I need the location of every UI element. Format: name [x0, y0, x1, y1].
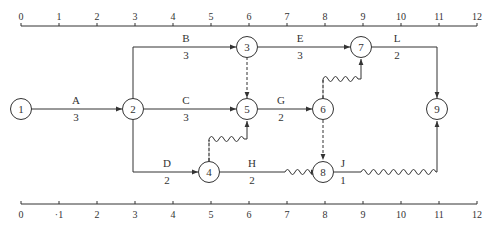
- axis-tick-label: 5: [209, 209, 214, 220]
- axis-tick-label: 8: [323, 11, 328, 22]
- svg-text:4: 4: [206, 166, 212, 178]
- activity-g-duration: 2: [278, 111, 284, 123]
- activity-b-duration: 3: [183, 49, 189, 61]
- axis-tick-label: 11: [434, 11, 444, 22]
- bottom-time-axis: 0·123456789101112: [19, 201, 483, 220]
- node-9: 9: [427, 99, 448, 120]
- activity-e-name: E: [297, 32, 304, 44]
- node-3: 3: [237, 37, 258, 58]
- activity-a-name: A: [72, 94, 80, 106]
- activity-h-name: H: [248, 157, 256, 169]
- svg-text:2: 2: [130, 103, 136, 115]
- axis-tick-label: 5: [209, 11, 214, 22]
- svg-text:7: 7: [358, 41, 364, 53]
- axis-tick-label: 6: [247, 209, 252, 220]
- axis-tick-label: 12: [472, 209, 482, 220]
- svg-text:9: 9: [434, 103, 440, 115]
- svg-text:6: 6: [320, 103, 326, 115]
- svg-text:5: 5: [244, 103, 250, 115]
- axis-tick-label: 7: [285, 209, 290, 220]
- axis-tick-label: 4: [171, 11, 176, 22]
- dummy-4-5-arrow: [209, 121, 247, 162]
- axis-tick-label: ·1: [55, 209, 63, 220]
- activity-d-name: D: [163, 157, 171, 169]
- svg-text:1: 1: [18, 103, 24, 115]
- svg-text:8: 8: [320, 166, 326, 178]
- axis-tick-label: 12: [472, 11, 482, 22]
- node-2: 2: [123, 99, 144, 120]
- activity-l-duration: 2: [394, 49, 400, 61]
- axis-tick-label: 7: [285, 11, 290, 22]
- axis-tick-label: 1: [57, 11, 62, 22]
- axis-tick-label: 4: [171, 209, 176, 220]
- axis-tick-label: 3: [133, 209, 138, 220]
- activity-j-float-wave: [361, 121, 437, 175]
- axis-tick-label: 3: [133, 11, 138, 22]
- top-time-axis: 0123456789101112: [19, 11, 483, 26]
- activity-l-name: L: [394, 32, 401, 44]
- axis-tick-label: 9: [361, 11, 366, 22]
- node-8: 8: [313, 162, 334, 183]
- axis-tick-label: 10: [396, 11, 406, 22]
- activity-c-duration: 3: [183, 111, 189, 123]
- node-7: 7: [351, 37, 372, 58]
- activity-e-duration: 3: [297, 49, 303, 61]
- svg-text:3: 3: [244, 41, 250, 53]
- activity-j-duration: 1: [340, 174, 346, 186]
- axis-tick-label: 0: [19, 209, 24, 220]
- axis-tick-label: 8: [323, 209, 328, 220]
- network-diagram: 0123456789101112 0·123456789101112: [0, 0, 491, 235]
- axis-tick-label: 10: [396, 209, 406, 220]
- axis-tick-label: 2: [95, 209, 100, 220]
- axis-tick-label: 6: [247, 11, 252, 22]
- activity-l-arrow: [372, 47, 437, 98]
- activity-c-name: C: [182, 94, 189, 106]
- activity-j-name: J: [341, 157, 346, 169]
- node-6: 6: [313, 99, 334, 120]
- activity-a-duration: 3: [73, 111, 79, 123]
- activity-b-name: B: [182, 32, 189, 44]
- node-1: 1: [11, 99, 32, 120]
- node-5: 5: [237, 99, 258, 120]
- axis-tick-label: 0: [19, 11, 24, 22]
- axis-tick-label: 2: [95, 11, 100, 22]
- axis-tick-label: 11: [434, 209, 444, 220]
- node-4: 4: [199, 162, 220, 183]
- activity-g-name: G: [277, 94, 285, 106]
- activity-d-duration: 2: [164, 174, 170, 186]
- activity-h-duration: 2: [249, 174, 255, 186]
- axis-tick-label: 9: [361, 209, 366, 220]
- dummy-6-7-arrow: [323, 59, 361, 99]
